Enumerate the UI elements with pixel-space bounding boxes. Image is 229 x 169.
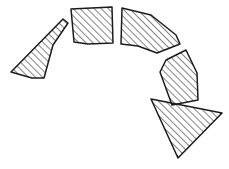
arc-segment-2	[71, 7, 113, 44]
figure-canvas	[0, 0, 229, 169]
figure-svg	[0, 0, 229, 169]
